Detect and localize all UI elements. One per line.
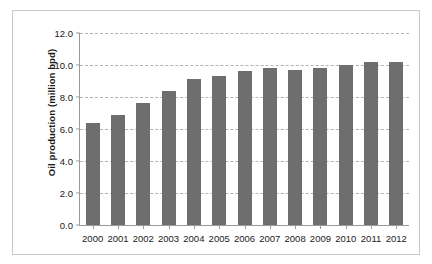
x-tick-label-2010: 2010 bbox=[335, 233, 356, 244]
x-tick-mark bbox=[169, 225, 170, 229]
x-tick-label-2009: 2009 bbox=[310, 233, 331, 244]
x-tick-mark bbox=[118, 225, 119, 229]
bar-2007 bbox=[263, 68, 277, 225]
x-tick-label-2012: 2012 bbox=[386, 233, 407, 244]
y-tick-label: 12.0 bbox=[55, 28, 74, 39]
bar-2000 bbox=[86, 123, 100, 225]
x-tick-label-2008: 2008 bbox=[285, 233, 306, 244]
bar-2004 bbox=[187, 79, 201, 225]
y-tick-mark bbox=[76, 193, 80, 194]
x-tick-label-2001: 2001 bbox=[107, 233, 128, 244]
plot-area: 0.02.04.06.08.010.012.020002001200220032… bbox=[79, 33, 409, 226]
y-tick-label: 2.0 bbox=[60, 188, 73, 199]
chart-frame: Oil production (million bpd) 0.02.04.06.… bbox=[12, 10, 420, 255]
x-tick-mark bbox=[320, 225, 321, 229]
y-tick-label: 0.0 bbox=[60, 220, 73, 231]
bar-2001 bbox=[111, 115, 125, 225]
x-tick-label-2005: 2005 bbox=[209, 233, 230, 244]
x-tick-mark bbox=[245, 225, 246, 229]
x-tick-mark bbox=[219, 225, 220, 229]
y-tick-mark bbox=[76, 225, 80, 226]
x-tick-label-2002: 2002 bbox=[133, 233, 154, 244]
x-tick-mark bbox=[396, 225, 397, 229]
x-tick-mark bbox=[346, 225, 347, 229]
x-tick-label-2003: 2003 bbox=[158, 233, 179, 244]
x-tick-mark bbox=[93, 225, 94, 229]
bar-2012 bbox=[389, 62, 403, 225]
bar-2002 bbox=[136, 103, 150, 225]
x-tick-label-2000: 2000 bbox=[82, 233, 103, 244]
y-tick-mark bbox=[76, 33, 80, 34]
x-tick-mark bbox=[270, 225, 271, 229]
y-tick-mark bbox=[76, 129, 80, 130]
y-tick-label: 4.0 bbox=[60, 156, 73, 167]
gridline-12.0 bbox=[80, 33, 409, 34]
y-tick-label: 6.0 bbox=[60, 124, 73, 135]
bar-2010 bbox=[339, 65, 353, 225]
x-tick-mark bbox=[143, 225, 144, 229]
figure: Oil production (million bpd) 0.02.04.06.… bbox=[0, 0, 432, 264]
y-tick-label: 8.0 bbox=[60, 92, 73, 103]
x-tick-mark bbox=[371, 225, 372, 229]
bar-2005 bbox=[212, 76, 226, 225]
x-tick-label-2007: 2007 bbox=[259, 233, 280, 244]
bar-2008 bbox=[288, 70, 302, 225]
x-tick-label-2011: 2011 bbox=[361, 233, 381, 244]
bar-2003 bbox=[162, 91, 176, 225]
x-tick-mark bbox=[295, 225, 296, 229]
y-tick-mark bbox=[76, 161, 80, 162]
gridline-10.0 bbox=[80, 65, 409, 66]
y-tick-mark bbox=[76, 65, 80, 66]
x-tick-label-2006: 2006 bbox=[234, 233, 255, 244]
bar-2009 bbox=[313, 68, 327, 225]
y-tick-label: 10.0 bbox=[55, 60, 74, 71]
x-tick-label-2004: 2004 bbox=[183, 233, 204, 244]
bar-2006 bbox=[238, 71, 252, 225]
y-axis-title: Oil production (million bpd) bbox=[46, 13, 57, 213]
y-tick-mark bbox=[76, 97, 80, 98]
x-tick-mark bbox=[194, 225, 195, 229]
bar-2011 bbox=[364, 62, 378, 225]
